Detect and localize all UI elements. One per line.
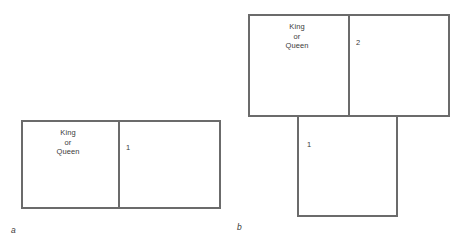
figure-a-divider	[118, 120, 120, 209]
figure-b-royal-seat-label: King or Queen	[258, 22, 336, 51]
figure-a-royal-seat-label: King or Queen	[29, 128, 107, 157]
figure-a: King or Queen 1 a	[0, 0, 230, 248]
diagram-canvas: King or Queen 1 a King or Queen 2 1 b	[0, 0, 459, 248]
figure-b-letter: b	[237, 222, 242, 232]
figure-b-head-table-divider	[348, 14, 350, 117]
figure-a-letter: a	[11, 225, 16, 235]
figure-b: King or Queen 2 1 b	[230, 0, 459, 248]
figure-b-seat-1-label: 1	[307, 140, 311, 150]
figure-b-seat-2-label: 2	[356, 38, 360, 48]
figure-a-seat-1-label: 1	[126, 143, 130, 153]
figure-b-side-table-outline	[297, 115, 398, 217]
